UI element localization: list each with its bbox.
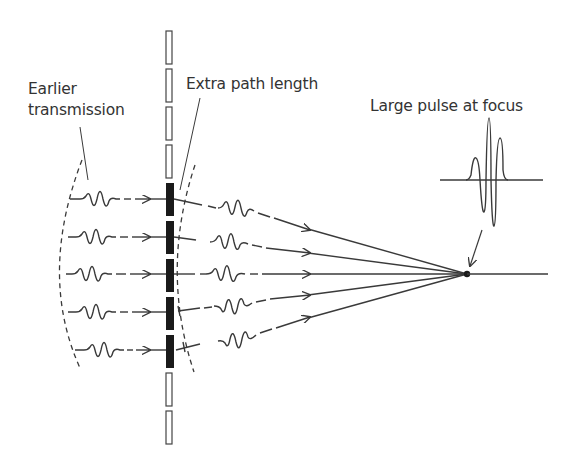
- pulse-curve: [466, 118, 508, 226]
- array-element: [166, 69, 172, 102]
- extra-path-leader: [180, 98, 200, 190]
- incoming-rows: [66, 192, 166, 358]
- active-element: [166, 221, 174, 254]
- tick: [183, 342, 185, 352]
- incoming-row-1: [70, 192, 166, 207]
- earlier-wavefront-arc: [59, 160, 82, 368]
- large-pulse-waveform: [440, 118, 543, 226]
- wavelet: [68, 230, 116, 245]
- array-inactive-elements-bottom: [166, 373, 172, 444]
- wavelet: [75, 343, 124, 358]
- incoming-row-3: [66, 267, 166, 282]
- array-element: [166, 107, 172, 140]
- array-element: [166, 411, 172, 444]
- incoming-row-2: [68, 230, 166, 245]
- array-active-elements: [166, 183, 174, 368]
- incoming-row-5: [75, 343, 166, 358]
- earlier-transmission-label-line2: transmission: [28, 101, 125, 119]
- active-element: [166, 259, 174, 292]
- wavelet: [218, 332, 256, 348]
- active-element: [166, 335, 174, 368]
- pulse-to-focus-arrow: [470, 230, 482, 266]
- array-inactive-elements-top: [166, 31, 172, 178]
- large-pulse-label: Large pulse at focus: [370, 97, 523, 115]
- wavelet: [70, 192, 120, 207]
- phased-array-focusing-diagram: [0, 0, 575, 466]
- wavelet: [66, 267, 112, 282]
- earlier-transmission-leader: [80, 127, 88, 180]
- active-element: [166, 297, 174, 330]
- array-element: [166, 373, 172, 406]
- array-element: [166, 145, 172, 178]
- incoming-row-4: [68, 305, 166, 320]
- wavelet: [214, 299, 252, 314]
- outgoing-rows: [174, 199, 467, 352]
- wavelet: [206, 266, 245, 282]
- outgoing-row-5: [176, 274, 467, 352]
- extra-path-length-label: Extra path length: [186, 75, 318, 93]
- active-element: [166, 183, 174, 216]
- array-element: [166, 31, 172, 64]
- delayed-wavefront-arc: [177, 165, 195, 372]
- wavelet: [68, 305, 116, 320]
- wavelet: [218, 200, 254, 216]
- outgoing-row-2: [174, 234, 467, 274]
- earlier-transmission-label-line1: Earlier: [28, 80, 77, 98]
- wavelet: [210, 234, 248, 250]
